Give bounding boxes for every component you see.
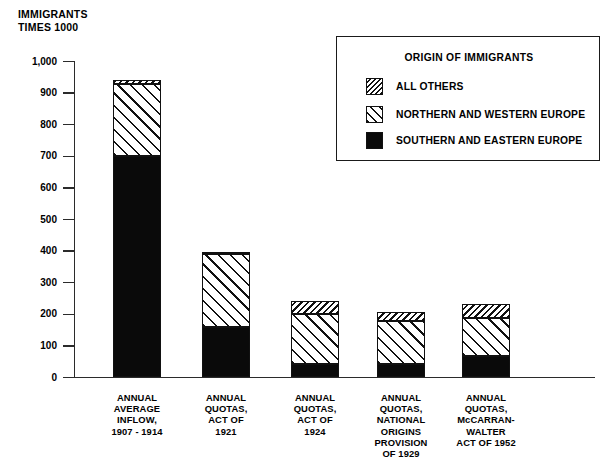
bar-segment bbox=[291, 314, 339, 365]
bar-segment bbox=[462, 356, 510, 377]
y-axis-tick-label: 700 bbox=[40, 151, 57, 161]
y-axis-title: IMMIGRANTS TIMES 1000 bbox=[18, 8, 88, 33]
y-axis-tick-label: 200 bbox=[40, 309, 57, 319]
bar-segment bbox=[202, 252, 250, 255]
y-axis-tick-label: 300 bbox=[40, 278, 57, 288]
legend-item-label: NORTHERN AND WESTERN EUROPE bbox=[396, 109, 585, 120]
y-axis-tick-label: 500 bbox=[40, 215, 57, 225]
y-axis-tick-label: 600 bbox=[40, 183, 57, 193]
y-axis-tick bbox=[63, 282, 74, 283]
y-axis-tick-label: 100 bbox=[40, 341, 57, 351]
y-axis-tick bbox=[63, 345, 74, 346]
bar-segment bbox=[291, 364, 339, 377]
y-axis-tick bbox=[63, 250, 74, 251]
legend-swatch-icon bbox=[366, 78, 383, 95]
y-axis-tick bbox=[63, 124, 74, 125]
immigration-quota-stacked-bar-chart: IMMIGRANTS TIMES 1000 010020030040050060… bbox=[0, 0, 609, 462]
y-axis-line bbox=[74, 61, 75, 378]
x-axis-category-label: ANNUAL QUOTAS, McCARRAN- WALTER ACT OF 1… bbox=[432, 392, 540, 448]
bar-segment bbox=[377, 364, 425, 378]
y-axis-tick bbox=[63, 314, 74, 315]
bar-segment bbox=[113, 84, 161, 157]
legend-item-label: ALL OTHERS bbox=[396, 81, 464, 92]
bar-segment bbox=[462, 304, 510, 318]
bar-segment bbox=[377, 312, 425, 321]
bar-segment bbox=[377, 321, 425, 363]
y-axis-tick bbox=[63, 187, 74, 188]
y-axis-tick-label: 1,000 bbox=[32, 57, 57, 67]
y-axis-tick-label: 800 bbox=[40, 120, 57, 130]
bar-segment bbox=[291, 301, 339, 313]
y-axis-tick bbox=[63, 156, 74, 157]
legend-title: ORIGIN OF IMMIGRANTS bbox=[337, 52, 601, 63]
legend-item-label: SOUTHERN AND EASTERN EUROPE bbox=[396, 135, 582, 146]
bar-segment bbox=[462, 318, 510, 356]
y-axis-tick-label: 400 bbox=[40, 246, 57, 256]
legend-swatch-icon bbox=[366, 106, 383, 123]
legend-swatch-icon bbox=[366, 132, 383, 149]
y-axis-tick bbox=[63, 377, 74, 378]
y-axis-tick-label: 900 bbox=[40, 88, 57, 98]
bar-stack bbox=[202, 0, 250, 378]
bar-segment bbox=[113, 80, 161, 83]
bar-segment bbox=[202, 254, 250, 327]
bar-segment bbox=[202, 327, 250, 378]
y-axis-tick-label: 0 bbox=[51, 373, 57, 383]
y-axis-tick bbox=[63, 219, 74, 220]
y-axis-tick bbox=[63, 92, 74, 93]
bar-stack bbox=[291, 0, 339, 378]
legend: ORIGIN OF IMMIGRANTS ALL OTHERSNORTHERN … bbox=[336, 36, 600, 161]
bar-stack bbox=[113, 0, 161, 378]
bar-segment bbox=[113, 156, 161, 377]
y-axis-tick bbox=[63, 61, 74, 62]
